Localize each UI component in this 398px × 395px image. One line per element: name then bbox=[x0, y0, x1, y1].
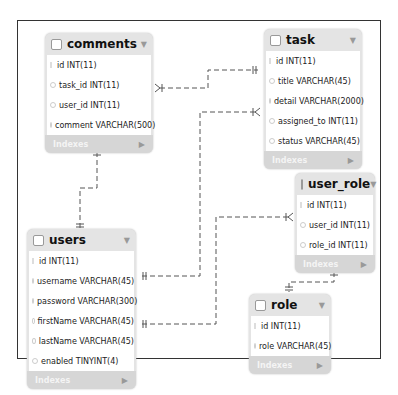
column-row: id INT(11) bbox=[251, 316, 329, 336]
column-row: status VARCHAR(45) bbox=[266, 131, 360, 151]
entity-header[interactable]: users▼ bbox=[27, 229, 136, 251]
collapse-icon[interactable]: ▼ bbox=[141, 40, 147, 49]
entity-title: role bbox=[271, 298, 319, 312]
entity-title: comments bbox=[67, 37, 141, 51]
primary-key-icon bbox=[300, 202, 304, 208]
column-icon bbox=[300, 222, 306, 228]
column-icon bbox=[32, 278, 34, 284]
entity-header[interactable]: task▼ bbox=[264, 29, 362, 51]
column-icon bbox=[32, 318, 35, 324]
column-icon bbox=[32, 358, 38, 364]
entity-users[interactable]: users▼ id INT(11) username VARCHAR(45) p… bbox=[27, 229, 136, 389]
column-row: detail VARCHAR(2000) bbox=[266, 91, 360, 111]
expand-icon: ▶ bbox=[317, 361, 323, 370]
primary-key-icon bbox=[254, 323, 258, 329]
table-icon bbox=[33, 235, 44, 246]
entity-title: user_role bbox=[308, 177, 370, 191]
collapse-icon[interactable]: ▼ bbox=[124, 236, 130, 245]
expand-icon: ▶ bbox=[122, 376, 128, 385]
column-icon bbox=[254, 343, 256, 349]
column-row: title VARCHAR(45) bbox=[266, 71, 360, 91]
entity-header[interactable]: comments▼ bbox=[45, 33, 153, 55]
entity-header[interactable]: role▼ bbox=[249, 294, 331, 316]
column-icon bbox=[269, 98, 271, 104]
entity-user-role[interactable]: user_role▼ id INT(11) user_id INT(11) ro… bbox=[295, 173, 375, 273]
expand-icon: ▶ bbox=[348, 156, 354, 165]
indexes-footer[interactable]: Indexes▶ bbox=[27, 371, 136, 389]
column-row: username VARCHAR(45) bbox=[29, 271, 134, 291]
column-row: id INT(11) bbox=[266, 51, 360, 71]
collapse-icon[interactable]: ▼ bbox=[370, 180, 376, 189]
primary-key-icon bbox=[32, 258, 36, 264]
indexes-footer[interactable]: Indexes▶ bbox=[295, 255, 375, 273]
column-icon bbox=[50, 102, 56, 108]
primary-key-icon bbox=[50, 62, 54, 68]
column-row: id INT(11) bbox=[47, 55, 151, 75]
entity-header[interactable]: user_role▼ bbox=[295, 173, 375, 195]
expand-icon: ▶ bbox=[361, 260, 367, 269]
column-icon bbox=[300, 242, 306, 248]
entity-comments[interactable]: comments▼ id INT(11) task_id INT(11) use… bbox=[45, 33, 153, 153]
expand-icon: ▶ bbox=[139, 140, 145, 149]
entity-role[interactable]: role▼ id INT(11) role VARCHAR(45) Indexe… bbox=[249, 294, 331, 374]
indexes-footer[interactable]: Indexes▶ bbox=[45, 135, 153, 153]
entity-title: users bbox=[49, 233, 124, 247]
column-row: id INT(11) bbox=[29, 251, 134, 271]
column-row: lastName VARCHAR(45) bbox=[29, 331, 134, 351]
indexes-footer[interactable]: Indexes▶ bbox=[264, 151, 362, 169]
column-row: assigned_to INT(11) bbox=[266, 111, 360, 131]
column-icon bbox=[50, 82, 56, 88]
table-icon bbox=[51, 39, 62, 50]
column-row: role VARCHAR(45) bbox=[251, 336, 329, 356]
collapse-icon[interactable]: ▼ bbox=[319, 301, 325, 310]
indexes-footer[interactable]: Indexes▶ bbox=[249, 356, 331, 374]
column-icon bbox=[269, 118, 275, 124]
column-row: id INT(11) bbox=[297, 195, 373, 215]
column-icon bbox=[269, 138, 275, 144]
entity-title: task bbox=[286, 33, 350, 47]
column-row: task_id INT(11) bbox=[47, 75, 151, 95]
column-icon bbox=[32, 298, 34, 304]
column-row: role_id INT(11) bbox=[297, 235, 373, 255]
column-row: user_id INT(11) bbox=[47, 95, 151, 115]
table-icon bbox=[255, 300, 266, 311]
column-icon bbox=[50, 122, 52, 128]
primary-key-icon bbox=[269, 58, 273, 64]
column-row: user_id INT(11) bbox=[297, 215, 373, 235]
column-row: enabled TINYINT(4) bbox=[29, 351, 134, 371]
column-icon bbox=[269, 78, 275, 84]
column-row: password VARCHAR(300) bbox=[29, 291, 134, 311]
entity-task[interactable]: task▼ id INT(11) title VARCHAR(45) detai… bbox=[264, 29, 362, 169]
collapse-icon[interactable]: ▼ bbox=[350, 36, 356, 45]
column-icon bbox=[32, 338, 36, 344]
column-row: comment VARCHAR(500) bbox=[47, 115, 151, 135]
table-icon bbox=[301, 179, 303, 190]
column-row: firstName VARCHAR(45) bbox=[29, 311, 134, 331]
table-icon bbox=[270, 35, 281, 46]
